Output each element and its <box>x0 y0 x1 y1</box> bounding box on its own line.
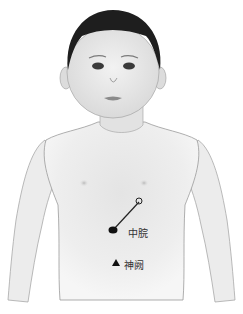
left-eye <box>92 63 104 70</box>
face <box>67 26 159 118</box>
right-nipple <box>139 179 149 187</box>
left-nipple <box>79 179 89 187</box>
right-eye <box>123 63 135 70</box>
child-body-illustration <box>0 0 243 314</box>
acupoint-diagram: 中脘 神阙 <box>0 0 243 314</box>
shenque-label: 神阙 <box>124 257 144 272</box>
zhongwan-label: 中脘 <box>128 225 148 240</box>
torso <box>44 122 199 300</box>
